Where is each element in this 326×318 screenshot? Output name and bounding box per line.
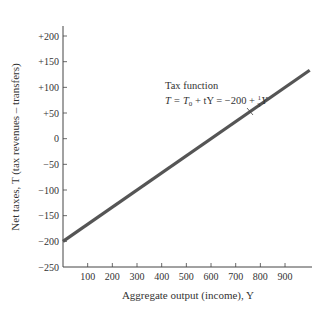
- x-axis-title: Aggregate output (income), Y: [122, 289, 254, 302]
- x-tick-label: 800: [253, 271, 268, 282]
- y-tick-label: +50: [43, 108, 59, 119]
- x-tick-label: 500: [179, 271, 194, 282]
- y-tick-label: −150: [38, 210, 59, 221]
- y-tick-label: −50: [43, 159, 59, 170]
- x-ticks: 100200300400500600700800900: [80, 263, 292, 282]
- tax-function-chart: +200+150+100+500−50−100−150−200−250 1002…: [0, 0, 326, 318]
- y-tick-label: −200: [38, 236, 59, 247]
- y-tick-label: +150: [38, 56, 59, 67]
- annotation-title: Tax function: [165, 80, 219, 91]
- x-tick-label: 600: [204, 271, 219, 282]
- x-tick-label: 300: [130, 271, 145, 282]
- x-tick-label: 100: [80, 271, 95, 282]
- x-tick-label: 400: [154, 271, 169, 282]
- x-tick-label: 900: [278, 271, 293, 282]
- annotation-equation: T = T0 + tY = −200 + 13Y: [165, 94, 268, 108]
- y-tick-label: −100: [38, 185, 59, 196]
- y-tick-label: +200: [38, 31, 59, 42]
- x-tick-label: 200: [105, 271, 120, 282]
- y-tick-label: −250: [38, 262, 59, 273]
- y-tick-label: +100: [38, 82, 59, 93]
- y-axis-title: Net taxes, T (tax revenues – transfers): [9, 63, 22, 231]
- x-tick-label: 700: [228, 271, 243, 282]
- y-tick-label: 0: [54, 133, 59, 144]
